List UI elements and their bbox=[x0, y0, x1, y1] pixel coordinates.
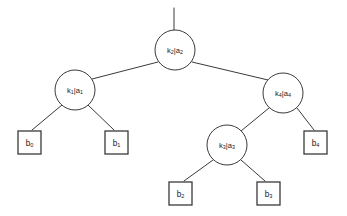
edge-k3-to-b2 bbox=[184, 160, 213, 181]
edge-k2-to-k4 bbox=[192, 62, 268, 80]
node-k3[interactable]: k3|a3 bbox=[207, 125, 247, 165]
node-k2[interactable]: k2|a2 bbox=[155, 30, 195, 70]
node-k3-value-sub: 3 bbox=[232, 144, 235, 150]
node-k4[interactable]: k4|a4 bbox=[263, 73, 303, 113]
node-k2-value-sub: 2 bbox=[180, 49, 183, 55]
leaf-b0-key-sub: 0 bbox=[30, 141, 33, 147]
leaf-b4-key-sub: 4 bbox=[316, 141, 319, 147]
leaf-b4[interactable]: b4 bbox=[304, 131, 327, 154]
binary-tree-diagram: k2|a2 k1|a1 k4|a4 k3|a3 bbox=[0, 0, 347, 216]
leaf-b3[interactable]: b3 bbox=[257, 182, 280, 205]
edge-k1-to-b0 bbox=[32, 105, 62, 130]
edge-k4-to-b4 bbox=[297, 108, 314, 130]
leaf-b2-key-sub: 2 bbox=[181, 192, 184, 198]
leaf-b1[interactable]: b1 bbox=[105, 131, 128, 154]
node-k1-value-sub: 1 bbox=[80, 89, 83, 95]
node-k1[interactable]: k1|a1 bbox=[55, 70, 95, 110]
edge-k1-to-b1 bbox=[88, 105, 114, 130]
leaf-b1-key-sub: 1 bbox=[117, 141, 120, 147]
leaf-b0[interactable]: b0 bbox=[18, 131, 41, 154]
edge-k2-to-k1 bbox=[92, 62, 158, 79]
leaf-b2[interactable]: b2 bbox=[169, 182, 192, 205]
tree-canvas: k2|a2 k1|a1 k4|a4 k3|a3 bbox=[0, 0, 347, 216]
edge-k3-to-b3 bbox=[241, 160, 265, 181]
node-k4-value-sub: 4 bbox=[288, 92, 291, 98]
edge-k4-to-k3 bbox=[241, 108, 269, 131]
leaf-b3-key-sub: 3 bbox=[269, 192, 272, 198]
